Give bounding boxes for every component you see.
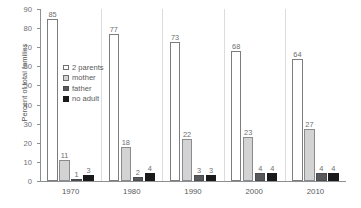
bar-1990-father[interactable]: 3 xyxy=(194,175,205,181)
y-tick-label: 80 xyxy=(24,24,32,33)
y-tick-10: 10 xyxy=(37,162,40,163)
y-tick-label: 60 xyxy=(24,62,32,71)
y-tick-30: 30 xyxy=(37,124,40,125)
bar-value-label: 77 xyxy=(110,25,118,34)
x-axis-label-1990: 1990 xyxy=(184,187,201,196)
bar-value-label: 4 xyxy=(331,164,335,173)
bar-group-2010: 642744 xyxy=(292,9,339,181)
bar-value-label: 22 xyxy=(183,130,191,139)
category-separator xyxy=(224,9,225,181)
bar-value-label: 68 xyxy=(232,42,240,51)
legend-swatch-icon xyxy=(63,75,69,81)
bar-value-label: 3 xyxy=(197,166,201,175)
legend-item-no-adult[interactable]: no adult xyxy=(63,94,104,105)
bar-value-label: 18 xyxy=(122,138,130,147)
bar-1970-2-parents[interactable]: 85 xyxy=(47,19,58,181)
legend-item-2-parents[interactable]: 2 parents xyxy=(63,62,104,73)
bar-chart: Percent of total families 01020304050607… xyxy=(0,0,361,208)
bar-1970-mother[interactable]: 11 xyxy=(59,160,70,181)
y-tick-label: 30 xyxy=(24,119,32,128)
bar-2010-2-parents[interactable]: 64 xyxy=(292,59,303,181)
y-tick-90: 90 xyxy=(37,9,40,10)
legend-label: mother xyxy=(72,73,96,82)
y-tick-20: 20 xyxy=(37,143,40,144)
bar-1990-mother[interactable]: 22 xyxy=(182,139,193,181)
bar-value-label: 3 xyxy=(87,166,91,175)
bar-2000-father[interactable]: 4 xyxy=(255,173,266,181)
y-tick-label: 0 xyxy=(28,177,32,186)
bar-value-label: 2 xyxy=(136,168,140,177)
bar-value-label: 73 xyxy=(171,33,179,42)
bar-value-label: 64 xyxy=(293,50,301,59)
y-tick-40: 40 xyxy=(37,105,40,106)
bar-value-label: 85 xyxy=(48,10,56,19)
legend-item-mother[interactable]: mother xyxy=(63,73,104,84)
bar-value-label: 4 xyxy=(258,164,262,173)
bar-1980-no-adult[interactable]: 4 xyxy=(145,173,156,181)
legend-label: father xyxy=(72,84,91,93)
legend-swatch-icon xyxy=(63,65,69,71)
bar-1990-2-parents[interactable]: 73 xyxy=(170,42,181,182)
bar-1990-no-adult[interactable]: 3 xyxy=(206,175,217,181)
bar-1970-no-adult[interactable]: 3 xyxy=(83,175,94,181)
legend-label: no adult xyxy=(72,94,99,103)
y-tick-label: 40 xyxy=(24,100,32,109)
bar-value-label: 23 xyxy=(244,128,252,137)
x-axis-label-2000: 2000 xyxy=(246,187,263,196)
x-axis-line xyxy=(40,181,346,182)
category-separator xyxy=(285,9,286,181)
y-tick-60: 60 xyxy=(37,66,40,67)
bar-2010-mother[interactable]: 27 xyxy=(304,129,315,181)
legend: 2 parentsmotherfatherno adult xyxy=(63,62,104,104)
legend-swatch-icon xyxy=(63,96,69,102)
bar-value-label: 27 xyxy=(305,120,313,129)
category-separator xyxy=(162,9,163,181)
bar-1980-father[interactable]: 2 xyxy=(133,177,144,181)
y-tick-label: 20 xyxy=(24,138,32,147)
bar-value-label: 4 xyxy=(148,164,152,173)
bar-2000-no-adult[interactable]: 4 xyxy=(267,173,278,181)
bar-2000-2-parents[interactable]: 68 xyxy=(231,51,242,181)
bar-value-label: 11 xyxy=(61,151,69,160)
bar-group-1980: 771824 xyxy=(109,9,156,181)
bar-group-2000: 682344 xyxy=(231,9,278,181)
y-tick-label: 10 xyxy=(24,157,32,166)
bar-value-label: 3 xyxy=(209,166,213,175)
y-tick-label: 90 xyxy=(24,5,32,14)
y-tick-0: 0 xyxy=(37,181,40,182)
x-axis-label-1970: 1970 xyxy=(62,187,79,196)
bar-2000-mother[interactable]: 23 xyxy=(243,137,254,181)
y-tick-50: 50 xyxy=(37,85,40,86)
bar-value-label: 1 xyxy=(75,170,79,179)
bar-1980-2-parents[interactable]: 77 xyxy=(109,34,120,181)
bar-value-label: 4 xyxy=(270,164,274,173)
legend-item-father[interactable]: father xyxy=(63,83,104,94)
legend-swatch-icon xyxy=(63,86,69,92)
bar-value-label: 4 xyxy=(319,164,323,173)
y-tick-label: 50 xyxy=(24,81,32,90)
bar-2010-no-adult[interactable]: 4 xyxy=(328,173,339,181)
bar-1970-father[interactable]: 1 xyxy=(71,179,82,181)
y-tick-label: 70 xyxy=(24,43,32,52)
x-axis-label-1980: 1980 xyxy=(123,187,140,196)
y-tick-80: 80 xyxy=(37,28,40,29)
x-axis-label-2010: 2010 xyxy=(307,187,324,196)
y-axis-line xyxy=(40,9,41,181)
bar-group-1990: 732233 xyxy=(170,9,217,181)
y-tick-70: 70 xyxy=(37,47,40,48)
bar-2010-father[interactable]: 4 xyxy=(316,173,327,181)
legend-label: 2 parents xyxy=(72,63,104,72)
bar-1980-mother[interactable]: 18 xyxy=(121,147,132,181)
